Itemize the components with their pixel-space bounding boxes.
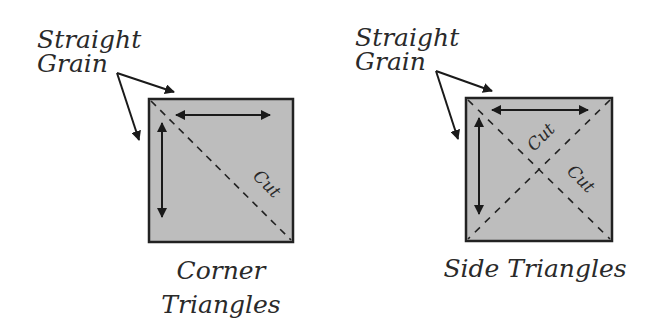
straight-grain-label-line2: Grain [355,47,426,76]
corner-triangles-panel: Straight Grain Cut Corner Triangles [37,25,293,319]
caption: Side Triangles [443,254,626,283]
caption-line2: Triangles [161,290,280,319]
side-triangles-panel: Straight Grain Cut Cut Side Triangles [355,23,627,283]
caption-line1: Corner [177,256,268,285]
quilt-triangle-cutting-diagram: Straight Grain Cut Corner Triangles Stra… [0,0,661,334]
straight-grain-label-line2: Grain [37,49,108,78]
